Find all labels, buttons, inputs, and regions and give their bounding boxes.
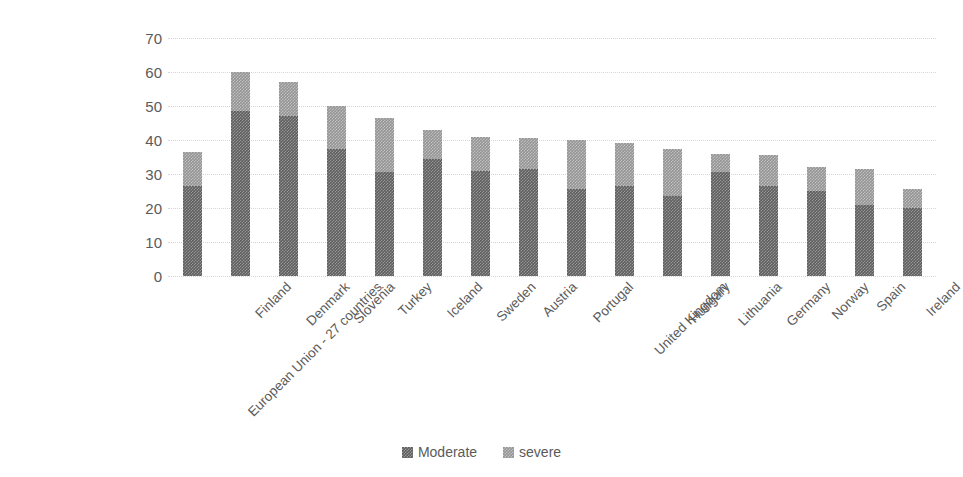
y-axis-tick-label: 70 [128,31,162,46]
bar-segment-moderate[interactable] [375,172,394,276]
bar-segment-moderate[interactable] [231,111,250,276]
legend-swatch-moderate-icon [402,447,413,458]
x-axis-label: Ireland [924,280,963,320]
legend-item[interactable]: severe [503,444,561,460]
y-axis-tick-label: 20 [128,201,162,216]
bar-segment-severe[interactable] [183,152,202,186]
bar-segment-moderate[interactable] [855,205,874,276]
bar-segment-severe[interactable] [519,138,538,169]
bar-segment-severe[interactable] [471,137,490,171]
bar-segment-moderate[interactable] [567,189,586,276]
bar-segment-severe[interactable] [327,106,346,149]
x-axis-label: Finland [253,280,295,322]
x-axis-label: Austria [540,280,580,320]
y-axis-tick-label: 10 [128,235,162,250]
legend-swatch-severe-icon [503,447,514,458]
bar-segment-moderate[interactable] [423,159,442,276]
plot-area [168,38,936,276]
bar-segment-severe[interactable] [423,130,442,159]
bar-segment-severe[interactable] [711,154,730,173]
bar-group[interactable] [615,143,634,276]
y-axis: 010203040506070 [122,38,162,276]
bar-segment-moderate[interactable] [615,186,634,276]
y-axis-tick-label: 40 [128,133,162,148]
bar-group[interactable] [663,149,682,277]
bar-segment-severe[interactable] [567,140,586,189]
x-axis-label: Portugal [591,280,637,326]
bar-group[interactable] [903,189,922,276]
bar-group[interactable] [807,167,826,276]
y-axis-tick-label: 30 [128,167,162,182]
gridline [168,38,936,39]
bar-segment-moderate[interactable] [663,196,682,276]
bar-group[interactable] [567,140,586,276]
y-axis-tick-label: 50 [128,99,162,114]
bar-group[interactable] [759,155,778,276]
x-axis-label: Turkey [396,280,435,319]
bar-segment-moderate[interactable] [711,172,730,276]
x-axis-label: Norway [829,280,872,323]
bar-group[interactable] [279,82,298,276]
bar-segment-moderate[interactable] [279,116,298,276]
y-axis-tick-label: 0 [128,269,162,284]
bar-segment-severe[interactable] [279,82,298,116]
bar-segment-severe[interactable] [855,169,874,205]
bar-segment-severe[interactable] [807,167,826,191]
bar-segment-moderate[interactable] [519,169,538,276]
x-axis-label: Sweden [494,280,539,325]
bar-segment-moderate[interactable] [471,171,490,276]
bar-segment-severe[interactable] [759,155,778,186]
bar-segment-moderate[interactable] [759,186,778,276]
bar-group[interactable] [327,106,346,276]
legend-item[interactable]: Moderate [402,444,477,460]
x-axis-label: Germany [784,280,834,330]
legend-label: Moderate [418,444,477,460]
bar-group[interactable] [375,118,394,276]
gridline [168,276,936,277]
bar-group[interactable] [183,152,202,276]
bar-segment-moderate[interactable] [903,208,922,276]
x-axis-label: Lithuania [736,280,785,329]
stacked-bar-chart: 010203040506070 European Union - 27 coun… [0,0,963,477]
bar-segment-severe[interactable] [231,72,250,111]
legend-label: severe [519,444,561,460]
bar-group[interactable] [519,138,538,276]
bar-group[interactable] [471,137,490,276]
chart-legend: Moderatesevere [0,444,963,460]
bar-segment-moderate[interactable] [807,191,826,276]
bar-segment-moderate[interactable] [327,149,346,277]
bar-group[interactable] [231,72,250,276]
bar-group[interactable] [855,169,874,276]
x-axis-label: Iceland [445,280,486,321]
bar-segment-severe[interactable] [903,189,922,208]
bar-segment-severe[interactable] [663,149,682,197]
bar-segment-moderate[interactable] [183,186,202,276]
x-axis-label: Spain [874,280,909,315]
bar-group[interactable] [423,130,442,276]
gridline [168,72,936,73]
bar-segment-severe[interactable] [375,118,394,172]
x-axis-category-labels: European Union - 27 countriesFinlandDenm… [168,280,936,430]
y-axis-tick-label: 60 [128,65,162,80]
bar-group[interactable] [711,154,730,276]
bar-segment-severe[interactable] [615,143,634,186]
